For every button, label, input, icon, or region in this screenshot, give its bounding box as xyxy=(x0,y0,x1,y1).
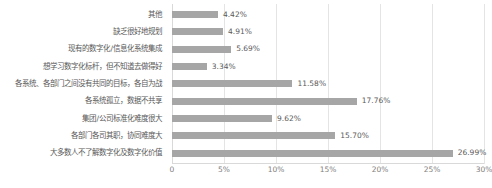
bar[interactable] xyxy=(172,132,335,139)
bar-value-label: 9.62% xyxy=(277,115,301,123)
category-label-text: 各系统、各部门之间没有共同的目标，各自为战 xyxy=(15,80,162,88)
bar-value-label: 4.91% xyxy=(228,28,252,36)
x-tick-20: 20% xyxy=(372,166,389,174)
bar[interactable] xyxy=(172,115,272,122)
x-tick-25: 25% xyxy=(424,166,441,174)
bar-row[interactable]: 3.34% xyxy=(172,58,484,75)
category-label: 各系统孤立，数据不共享 xyxy=(0,93,166,110)
x-axis-tick-labels: 05%10%15%20%25%30% xyxy=(172,166,484,180)
bar-value-label: 5.69% xyxy=(236,45,260,53)
bar-row[interactable]: 4.42% xyxy=(172,6,484,23)
bar-row[interactable]: 5.69% xyxy=(172,41,484,58)
x-tick-10: 10% xyxy=(268,166,285,174)
plot-area: 4.42%4.91%5.69%3.34%11.58%17.76%9.62%15.… xyxy=(172,4,484,164)
bar-row[interactable]: 11.58% xyxy=(172,75,484,92)
x-tick-5: 5% xyxy=(218,166,230,174)
x-axis-line xyxy=(172,163,484,164)
bar-row[interactable]: 4.91% xyxy=(172,23,484,40)
bar[interactable] xyxy=(172,28,223,35)
bar-value-label: 26.99% xyxy=(458,149,487,157)
bar-value-label: 11.58% xyxy=(297,80,326,88)
bar[interactable] xyxy=(172,63,207,70)
category-label: 各系统、各部门之间没有共同的目标，各自为战 xyxy=(0,75,166,92)
bar[interactable] xyxy=(172,150,453,157)
category-label-text: 其他 xyxy=(148,11,162,19)
bar-value-label: 3.34% xyxy=(212,63,236,71)
bar-row[interactable]: 26.99% xyxy=(172,144,484,161)
category-label: 各部门各司其职，协同难度大 xyxy=(0,127,166,144)
category-label-text: 各系统孤立，数据不共享 xyxy=(85,97,162,105)
category-axis-labels: 其他缺乏很好地规划现有的数字化/信息化系统集成想学习数字化标杆，但不知道去做得好… xyxy=(0,4,166,164)
bar-rows: 4.42%4.91%5.69%3.34%11.58%17.76%9.62%15.… xyxy=(172,4,484,164)
bar-value-label: 15.70% xyxy=(340,132,369,140)
category-label: 想学习数字化标杆，但不知道去做得好 xyxy=(0,58,166,75)
category-label-text: 大多数人不了解数字化及数字化价值 xyxy=(50,149,162,157)
category-label: 缺乏很好地规划 xyxy=(0,23,166,40)
category-label-text: 现有的数字化/信息化系统集成 xyxy=(68,45,162,53)
x-tick-30: 30% xyxy=(476,166,492,174)
x-tick-0: 0 xyxy=(170,166,175,174)
category-label-text: 集团/公司标准化难度很大 xyxy=(82,115,162,123)
category-label: 大多数人不了解数字化及数字化价值 xyxy=(0,144,166,161)
bar-row[interactable]: 17.76% xyxy=(172,93,484,110)
gridline-30 xyxy=(484,4,485,164)
bar-row[interactable]: 15.70% xyxy=(172,127,484,144)
category-label-text: 缺乏很好地规划 xyxy=(113,28,162,36)
category-label: 现有的数字化/信息化系统集成 xyxy=(0,41,166,58)
bar-value-label: 4.42% xyxy=(223,11,247,19)
category-label: 集团/公司标准化难度很大 xyxy=(0,110,166,127)
category-label: 其他 xyxy=(0,6,166,23)
bar[interactable] xyxy=(172,80,292,87)
category-label-text: 想学习数字化标杆，但不知道去做得好 xyxy=(43,63,162,71)
category-label-text: 各部门各司其职，协同难度大 xyxy=(71,132,162,140)
bar[interactable] xyxy=(172,11,218,18)
bar-value-label: 17.76% xyxy=(362,97,391,105)
x-tick-15: 15% xyxy=(320,166,337,174)
bar-row[interactable]: 9.62% xyxy=(172,110,484,127)
bar[interactable] xyxy=(172,98,357,105)
bar[interactable] xyxy=(172,46,231,53)
